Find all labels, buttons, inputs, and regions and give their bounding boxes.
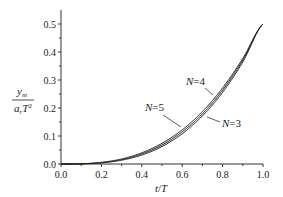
y-tick-label: 0.1 bbox=[44, 131, 57, 142]
x-tick-label: 0.8 bbox=[216, 169, 229, 180]
y-tick-label: 0.5 bbox=[44, 19, 57, 30]
x-axis-label: t/T bbox=[155, 182, 168, 194]
y-tick-label: 0.2 bbox=[44, 103, 57, 114]
annotation-label: N=4 bbox=[185, 75, 206, 87]
annotation-leader bbox=[205, 88, 213, 95]
svg-text:ym: ym bbox=[16, 85, 27, 99]
x-tick-label: 0.2 bbox=[95, 169, 108, 180]
x-tick-labels: 0.00.20.40.60.81.0 bbox=[55, 169, 270, 180]
annotation-label: N=3 bbox=[221, 117, 242, 129]
curve-n-4 bbox=[61, 24, 263, 164]
y-tick-label: 0.3 bbox=[44, 75, 57, 86]
svg-text:arT2: arT2 bbox=[14, 102, 32, 116]
x-tick-label: 0.0 bbox=[55, 169, 68, 180]
x-tick-label: 1.0 bbox=[257, 169, 270, 180]
curves bbox=[61, 24, 263, 164]
chart: 0.00.10.20.30.40.5 0.00.20.40.60.81.0 N=… bbox=[0, 0, 283, 197]
annotation-leader bbox=[207, 117, 220, 122]
y-tick-label: 0.4 bbox=[44, 47, 57, 58]
y-tick-label: 0.0 bbox=[44, 159, 57, 170]
axes bbox=[58, 10, 263, 167]
annotation-label: N=5 bbox=[144, 101, 165, 113]
x-tick-label: 0.4 bbox=[136, 169, 149, 180]
annotation-leader bbox=[163, 115, 181, 127]
y-axis-label: ym arT2 bbox=[12, 85, 34, 116]
y-tick-labels: 0.00.10.20.30.40.5 bbox=[44, 19, 57, 170]
x-tick-label: 0.6 bbox=[176, 169, 189, 180]
